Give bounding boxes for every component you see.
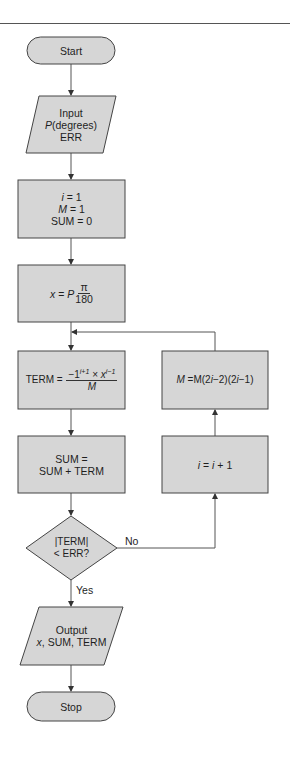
decision-line-2: < ERR? bbox=[54, 548, 89, 560]
init-line-3: SUM = 0 bbox=[51, 215, 92, 227]
stop-text: Stop bbox=[60, 701, 82, 713]
edge-update-term-loop bbox=[72, 332, 215, 351]
output-line-1: Output bbox=[56, 624, 88, 636]
term-label: TERM = −1i+1 × xi−1 M bbox=[18, 351, 125, 409]
increment-d: + 1 bbox=[214, 459, 232, 471]
edge-label-yes: Yes bbox=[76, 584, 93, 596]
output-rest: , SUM, TERM bbox=[42, 636, 107, 648]
init-label: i = 1 M = 1 SUM = 0 bbox=[18, 180, 125, 238]
output-label: Output x, SUM, TERM bbox=[20, 607, 123, 665]
decision-label: |TERM| < ERR? bbox=[26, 530, 117, 566]
term-sup-a: i+1 bbox=[80, 367, 90, 374]
update-m-label: M =M(2i−2)(2i−1) bbox=[162, 351, 268, 409]
input-var-p-unit: (degrees) bbox=[52, 119, 97, 131]
convert-label: x = P π 180 bbox=[18, 265, 125, 322]
update-m-a: M bbox=[176, 374, 184, 386]
init-val-m: = 1 bbox=[67, 203, 85, 215]
init-var-m: M bbox=[58, 203, 67, 215]
term-denominator: M bbox=[88, 381, 96, 392]
init-val-i: = 1 bbox=[64, 191, 82, 203]
edge-label-no: No bbox=[125, 535, 138, 547]
stop-label: Stop bbox=[27, 692, 115, 721]
sum-line-2: SUM + TERM bbox=[39, 465, 104, 477]
convert-eq: = bbox=[55, 288, 67, 300]
input-line-1: Input bbox=[59, 107, 82, 119]
sum-line-1: SUM = bbox=[55, 453, 87, 465]
convert-fraction: π 180 bbox=[75, 282, 93, 305]
term-lhs: TERM = bbox=[26, 374, 66, 386]
term-num-a: −1 bbox=[68, 369, 79, 380]
update-m-b: =M(2 bbox=[185, 374, 211, 386]
increment-b: = bbox=[200, 459, 212, 471]
input-label: Input P(degrees) ERR bbox=[26, 96, 116, 153]
output-line-2: x, SUM, TERM bbox=[37, 636, 107, 648]
start-text: Start bbox=[60, 45, 82, 57]
decision-line-1: |TERM| bbox=[55, 536, 89, 548]
input-line-3: ERR bbox=[60, 131, 82, 143]
update-m-f: −1) bbox=[239, 374, 254, 386]
start-label: Start bbox=[27, 37, 115, 64]
term-times: × bbox=[89, 369, 100, 380]
sum-label: SUM = SUM + TERM bbox=[18, 436, 125, 493]
init-line-2: M = 1 bbox=[58, 203, 85, 215]
term-numerator: −1i+1 × xi−1 bbox=[66, 369, 117, 381]
convert-denominator: 180 bbox=[75, 294, 93, 305]
term-sup-b: i−1 bbox=[106, 367, 116, 374]
input-line-2: P(degrees) bbox=[45, 119, 97, 131]
increment-label: i = i + 1 bbox=[162, 436, 268, 493]
term-fraction: −1i+1 × xi−1 M bbox=[66, 369, 117, 392]
convert-p: P bbox=[67, 288, 74, 300]
input-var-p: P bbox=[45, 119, 52, 131]
update-m-d: −2)(2 bbox=[213, 374, 237, 386]
init-line-1: i = 1 bbox=[61, 191, 81, 203]
